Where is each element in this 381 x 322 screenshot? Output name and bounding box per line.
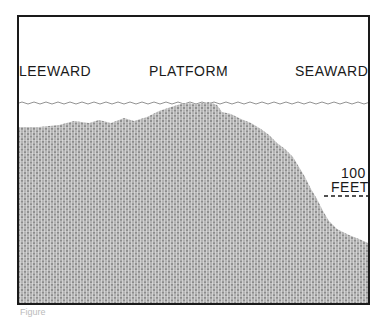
figure-caption: Figure — [20, 307, 46, 317]
depth-unit-label: FEET — [331, 179, 369, 195]
reef-cross-section — [19, 17, 368, 303]
seaward-label: SEAWARD — [295, 63, 368, 79]
leeward-label: LEEWARD — [19, 63, 91, 79]
diagram-frame: LEEWARD PLATFORM SEAWARD 100 FEET — [17, 15, 370, 305]
platform-label: PLATFORM — [149, 63, 228, 79]
reef-mass — [19, 102, 368, 303]
sea-level-line — [19, 102, 368, 104]
